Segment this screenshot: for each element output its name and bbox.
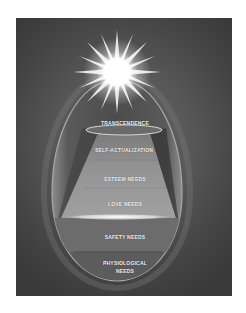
level-label-physiological-line1: PHYSIOLOGICAL <box>103 260 147 267</box>
level-label-love: LOVE NEEDS <box>108 201 142 208</box>
level-label-transcendence: TRANSCENDENCE <box>101 120 149 127</box>
level-label-safety: SAFETY NEEDS <box>105 234 146 241</box>
level-label-esteem: ESTEEM NEEDS <box>104 176 146 183</box>
egg-diagram <box>16 18 232 296</box>
level-label-physiological-line2: NEEDS <box>116 268 134 275</box>
glow-line <box>66 214 170 220</box>
level-label-self-actualization: SELF-ACTUALIZATION <box>95 147 153 154</box>
diagram-panel: TRANSCENDENCE SELF-ACTUALIZATION ESTEEM … <box>16 18 232 296</box>
